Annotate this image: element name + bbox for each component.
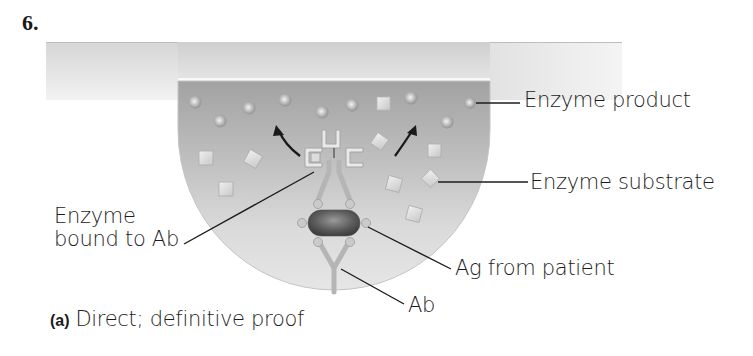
elisa-diagram: 6. Enzyme product Enzyme substrate Enzym… — [0, 0, 753, 356]
label-enzyme-bound-line2: bound to Ab — [54, 228, 179, 251]
question-number: 6. — [22, 10, 39, 36]
figure-caption: (a) Direct; definitive proof — [50, 307, 304, 331]
caption-tag: (a) — [50, 312, 70, 329]
well — [178, 42, 490, 290]
label-enzyme-substrate: Enzyme substrate — [530, 170, 715, 194]
label-ab: Ab — [408, 293, 435, 317]
label-enzyme-product: Enzyme product — [524, 88, 691, 112]
caption-text: Direct; definitive proof — [75, 307, 304, 331]
label-enzyme-bound-line1: Enzyme — [54, 205, 179, 228]
label-enzyme-bound-to-ab: Enzyme bound to Ab — [54, 205, 179, 251]
label-ag-from-patient: Ag from patient — [455, 256, 614, 280]
